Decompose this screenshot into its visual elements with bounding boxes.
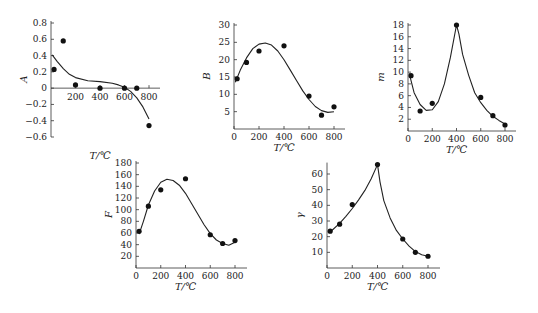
data-point [256, 48, 261, 53]
x-tick-label: 400 [91, 92, 108, 102]
y-tick-label: 140 [115, 181, 132, 191]
x-tick-label: 800 [419, 271, 436, 281]
x-tick-label: 400 [177, 271, 194, 281]
data-point [208, 232, 213, 237]
x-tick-label: 600 [394, 271, 411, 281]
fit-curve [330, 165, 428, 257]
y-tick-label: 0.6 [33, 34, 48, 44]
x-tick-label: 800 [140, 92, 157, 102]
data-point [400, 236, 405, 241]
x-axis-label: T/℃ [273, 142, 294, 153]
y-tick-label: 40 [312, 200, 324, 210]
x-tick-label: 200 [250, 132, 267, 142]
chart-F: 204060801001201401601800200400600800FT/℃ [103, 158, 247, 292]
data-point [244, 60, 249, 65]
chart-B: 510152025300200400600800BT/℃ [201, 20, 345, 153]
data-point [220, 241, 225, 246]
y-tick-label: 80 [121, 216, 133, 226]
data-point [97, 86, 102, 91]
data-point [281, 43, 286, 48]
x-tick-label: 600 [300, 132, 317, 142]
y-tick-label: 40 [121, 240, 133, 250]
chart-m: 246810121416180200400600800mT/℃ [375, 20, 516, 155]
y-tick-label: 12 [393, 55, 404, 65]
y-tick-label: 0.4 [33, 51, 48, 61]
data-point [158, 187, 163, 192]
y-tick-label: 30 [312, 216, 324, 226]
y-tick-label: 50 [312, 185, 324, 195]
data-point [134, 86, 139, 91]
data-point [235, 76, 240, 81]
data-point [418, 108, 423, 113]
x-tick-label: 400 [448, 134, 465, 144]
x-tick-label: 0 [133, 271, 139, 281]
y-tick-label: 15 [219, 72, 231, 82]
data-point [430, 101, 435, 106]
y-tick-label: 2 [398, 114, 404, 124]
y-tick-label: 60 [121, 228, 133, 238]
x-tick-label: 800 [325, 132, 342, 142]
y-tick-label: −0.2 [25, 99, 47, 109]
data-point [232, 238, 237, 243]
x-tick-label: 600 [202, 271, 219, 281]
x-tick-label: 0 [324, 271, 330, 281]
fit-curve [235, 43, 334, 112]
data-point [146, 123, 151, 128]
y-tick-label: 0 [41, 83, 47, 93]
y-tick-label: 20 [121, 251, 133, 261]
data-point [413, 250, 418, 255]
data-point [306, 93, 311, 98]
y-tick-label: 10 [219, 89, 231, 99]
data-point [51, 67, 56, 72]
y-tick-label: 14 [393, 44, 405, 54]
y-axis-label: B [201, 72, 212, 80]
y-tick-label: 20 [312, 232, 324, 242]
data-point [73, 82, 78, 87]
x-axis-label: T/℃ [175, 281, 196, 292]
data-point [425, 254, 430, 259]
y-axis-label: γ [294, 212, 305, 218]
data-point [375, 162, 380, 167]
x-tick-label: 600 [472, 134, 489, 144]
data-point [136, 229, 141, 234]
x-tick-label: 200 [67, 92, 84, 102]
data-point [328, 229, 333, 234]
x-tick-label: 400 [369, 271, 386, 281]
y-tick-label: 20 [219, 55, 231, 65]
x-tick-label: 800 [226, 271, 243, 281]
data-point [146, 204, 151, 209]
y-axis-label: F [103, 210, 114, 219]
x-tick-label: 600 [116, 92, 133, 102]
data-point [454, 22, 459, 27]
figure-canvas: −0.6−0.4−0.200.20.40.60.8200400600800AT/… [0, 0, 538, 313]
y-tick-label: −0.6 [25, 132, 47, 142]
x-tick-label: 200 [424, 134, 441, 144]
x-tick-label: 0 [405, 134, 411, 144]
y-tick-label: 5 [224, 107, 230, 117]
chart-gamma: 1020304050600200400600800γT/℃ [294, 162, 440, 292]
data-point [319, 113, 324, 118]
y-tick-label: 100 [115, 205, 132, 215]
y-tick-label: −0.4 [25, 116, 47, 126]
y-tick-label: 18 [393, 20, 405, 30]
x-axis-label: T/℃ [89, 150, 110, 161]
data-point [61, 38, 66, 43]
fit-curve [139, 179, 235, 245]
y-tick-label: 60 [312, 169, 324, 179]
y-tick-label: 30 [219, 20, 231, 30]
x-axis-label: T/℃ [367, 281, 388, 292]
y-tick-label: 180 [115, 158, 132, 168]
y-tick-label: 0.2 [33, 67, 47, 77]
y-tick-label: 25 [219, 37, 231, 47]
x-tick-label: 400 [275, 132, 292, 142]
y-axis-label: m [375, 72, 386, 81]
x-tick-label: 200 [344, 271, 361, 281]
y-tick-label: 10 [393, 67, 405, 77]
chart-A: −0.6−0.4−0.200.20.40.60.8200400600800AT/… [18, 18, 160, 161]
y-tick-label: 0.8 [33, 18, 48, 28]
x-tick-label: 200 [152, 271, 169, 281]
data-point [408, 73, 413, 78]
data-point [350, 202, 355, 207]
y-tick-label: 160 [115, 170, 132, 180]
y-tick-label: 120 [115, 193, 132, 203]
